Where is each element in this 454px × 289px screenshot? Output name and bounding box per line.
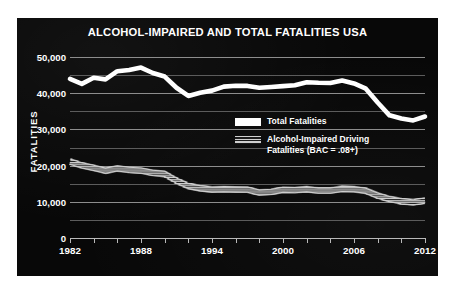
x-axis-tick (94, 238, 95, 243)
legend-label-alcohol-impaired: Alcohol-Impaired DrivingFatalities (BAC … (267, 134, 369, 156)
x-axis-tick (401, 238, 402, 243)
legend-swatch-alcohol-impaired (235, 136, 261, 144)
series-line-total-fatalities (70, 68, 425, 121)
x-axis-tick (283, 238, 284, 243)
y-axis-tick-label: 50,000 (37, 52, 66, 63)
x-axis-tick (212, 238, 213, 243)
x-axis-tick-label: 1988 (130, 245, 152, 256)
y-axis-tick-label: 20,000 (37, 160, 66, 171)
x-axis-tick-label: 2006 (343, 245, 365, 256)
x-axis-tick (70, 238, 71, 243)
x-axis-tick (330, 238, 331, 243)
legend-label-alcohol-impaired-line1: Alcohol-Impaired Driving (267, 134, 369, 144)
x-axis-tick-label: 2000 (272, 245, 294, 256)
x-axis-tick-label: 1994 (201, 245, 223, 256)
y-axis-tick-label: 30,000 (37, 124, 66, 135)
chart-legend: Total Fatalities Alcohol-Impaired Drivin… (235, 116, 385, 163)
y-axis-tick-label: 40,000 (37, 88, 66, 99)
x-axis-tick (425, 238, 426, 243)
chart-title: ALCOHOL-IMPAIRED AND TOTAL FATALITIES US… (17, 26, 438, 38)
x-axis-tick (117, 238, 118, 243)
y-axis-tick-label: 0 (61, 233, 66, 244)
legend-swatch-total-fatalities (235, 118, 261, 126)
x-axis-tick (307, 238, 308, 243)
x-axis-tick (354, 238, 355, 243)
x-axis-tick-label: 2012 (414, 245, 436, 256)
x-axis-tick (165, 238, 166, 243)
x-axis-tick (378, 238, 379, 243)
x-axis-tick (188, 238, 189, 243)
legend-label-total-fatalities: Total Fatalities (267, 116, 327, 127)
legend-item-total-fatalities: Total Fatalities (235, 116, 385, 127)
chart-figure: ALCOHOL-IMPAIRED AND TOTAL FATALITIES US… (17, 18, 438, 276)
x-axis-tick-label: 1982 (59, 245, 81, 256)
x-axis-tick (259, 238, 260, 243)
x-axis-tick (141, 238, 142, 243)
legend-label-alcohol-impaired-line2: Fatalities (BAC = .08+) (267, 145, 358, 155)
legend-item-alcohol-impaired: Alcohol-Impaired DrivingFatalities (BAC … (235, 134, 385, 156)
y-axis-title: FATALITIES (28, 97, 39, 187)
y-axis-tick-label: 10,000 (37, 196, 66, 207)
x-axis-tick (236, 238, 237, 243)
x-axis-line (70, 238, 425, 239)
